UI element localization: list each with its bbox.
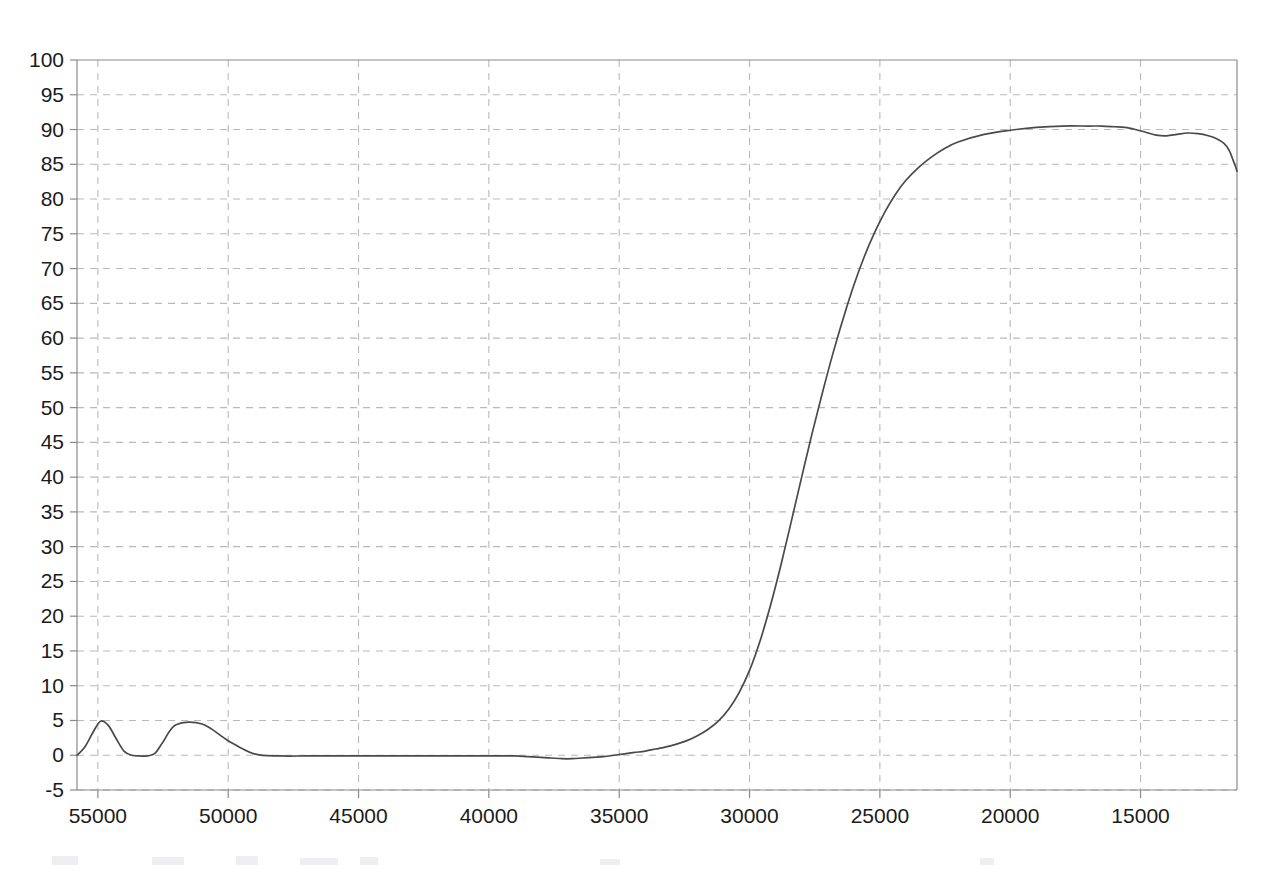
y-tick-label-5: 5 [52,708,64,731]
y-tick-label-95: 95 [41,83,64,106]
y-tick-label-85: 85 [41,152,64,175]
x-tick-label-45000: 45000 [329,804,387,827]
x-tick-label-55000: 55000 [69,804,127,827]
y-tick-label-75: 75 [41,222,64,245]
y-tick-label-70: 70 [41,257,64,280]
chart-root: -505101520253035404550556065707580859095… [0,0,1275,873]
x-tick-label-30000: 30000 [720,804,778,827]
y-tick-label-100: 100 [29,48,64,71]
y-tick-label-80: 80 [41,187,64,210]
y-tick-label--5: -5 [45,778,64,801]
y-tick-label-60: 60 [41,326,64,349]
y-tick-label-20: 20 [41,604,64,627]
y-tick-label-30: 30 [41,535,64,558]
transmittance-spectrum-chart: -505101520253035404550556065707580859095… [0,0,1275,873]
y-tick-label-15: 15 [41,639,64,662]
x-tick-label-15000: 15000 [1111,804,1169,827]
y-tick-label-50: 50 [41,396,64,419]
x-tick-label-40000: 40000 [460,804,518,827]
x-tick-label-35000: 35000 [590,804,648,827]
y-tick-label-45: 45 [41,430,64,453]
x-axis-tick-labels: 5500050000450004000035000300002500020000… [69,804,1170,827]
y-tick-label-10: 10 [41,674,64,697]
y-tick-label-40: 40 [41,465,64,488]
y-tick-label-25: 25 [41,569,64,592]
y-tick-label-90: 90 [41,118,64,141]
x-tick-label-25000: 25000 [851,804,909,827]
x-tick-label-20000: 20000 [981,804,1039,827]
y-tick-label-35: 35 [41,500,64,523]
y-tick-label-0: 0 [52,743,64,766]
x-tick-label-50000: 50000 [199,804,257,827]
y-tick-label-55: 55 [41,361,64,384]
y-tick-label-65: 65 [41,291,64,314]
chart-background [0,0,1275,873]
